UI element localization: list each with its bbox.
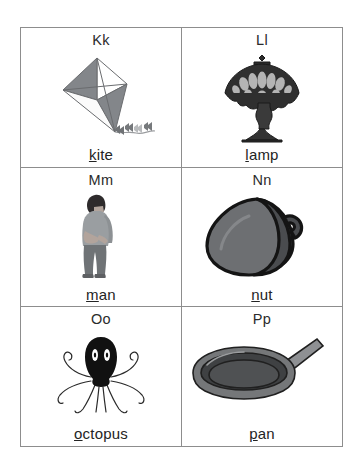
word-initial: p <box>249 425 258 442</box>
word-label: octopus <box>74 425 128 442</box>
letter-heading: Mm <box>89 172 114 188</box>
lamp-icon <box>182 48 342 146</box>
card-cell-lamp[interactable]: Ll <box>182 28 343 168</box>
word-label: nut <box>251 286 272 303</box>
word-rest: amp <box>249 146 279 163</box>
card-cell-kite[interactable]: Kk <box>21 28 182 168</box>
card-cell-nut[interactable]: Nn nut <box>182 167 343 307</box>
word-initial: m <box>86 286 99 303</box>
word-initial: o <box>74 425 83 442</box>
word-rest: ctopus <box>83 425 128 442</box>
man-icon <box>21 188 181 286</box>
grid-row: Oo <box>21 307 343 447</box>
word-label: lamp <box>245 146 278 163</box>
word-label: kite <box>89 146 113 163</box>
word-rest: an <box>258 425 275 442</box>
word-rest: ut <box>260 286 273 303</box>
word-label: man <box>86 286 116 303</box>
card-cell-pan[interactable]: Pp pa <box>182 307 343 447</box>
pan-icon <box>182 327 342 425</box>
card-cell-man[interactable]: Mm <box>21 167 182 307</box>
word-initial: k <box>89 146 97 163</box>
letter-heading: Pp <box>253 311 271 327</box>
grid-row: Kk <box>21 28 343 168</box>
worksheet-page: Kk <box>0 0 363 476</box>
letter-heading: Ll <box>256 32 268 48</box>
alphabet-grid: Kk <box>20 27 343 447</box>
octopus-icon <box>21 327 181 425</box>
card-cell-octopus[interactable]: Oo <box>21 307 182 447</box>
word-label: pan <box>249 425 275 442</box>
word-rest: ite <box>97 146 113 163</box>
grid-row: Mm <box>21 167 343 307</box>
nut-icon <box>182 188 342 286</box>
letter-heading: Nn <box>252 172 271 188</box>
word-initial: n <box>251 286 260 303</box>
word-rest: an <box>99 286 116 303</box>
kite-icon <box>21 48 181 146</box>
letter-heading: Kk <box>92 32 110 48</box>
letter-heading: Oo <box>91 311 111 327</box>
